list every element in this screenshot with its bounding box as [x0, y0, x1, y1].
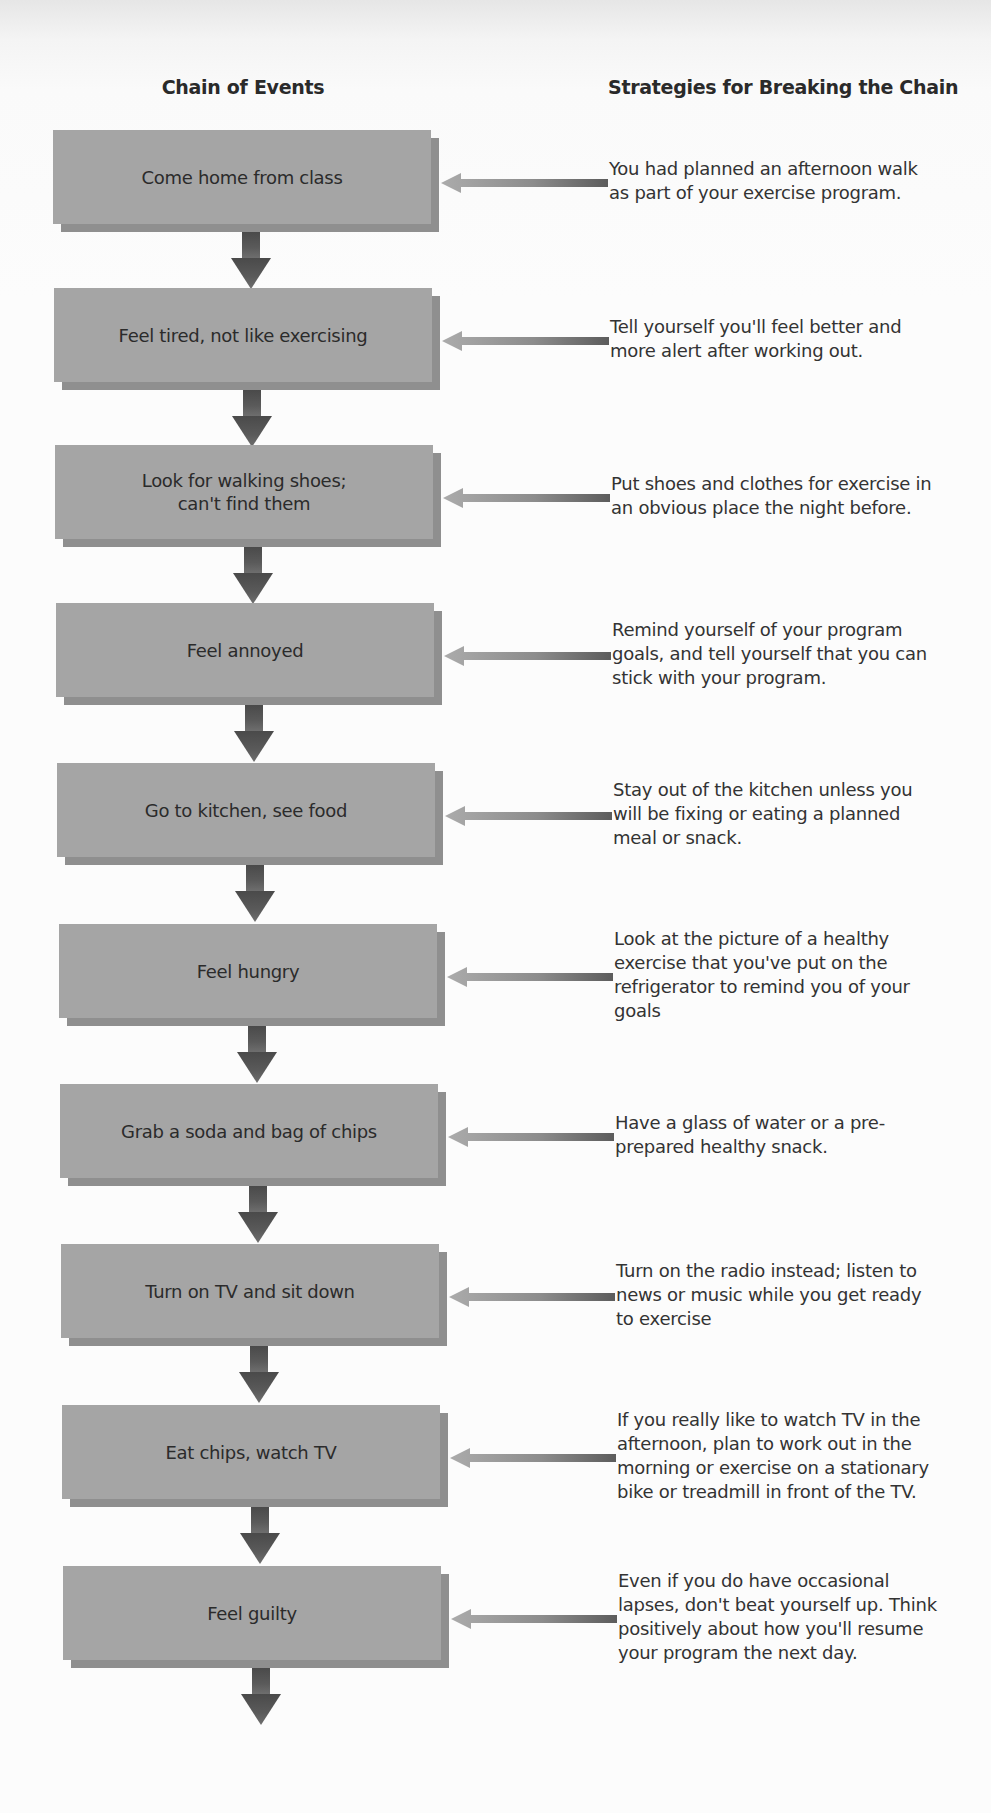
strategy-text: Have a glass of water or a pre- prepared… [615, 1111, 965, 1159]
event-step: Feel hungry [59, 924, 437, 1018]
event-step: Go to kitchen, see food [57, 763, 435, 857]
strategy-text: Put shoes and clothes for exercise in an… [611, 472, 961, 520]
down-arrow-icon [234, 865, 276, 923]
event-step: Come home from class [53, 130, 431, 224]
left-arrow-icon [447, 967, 613, 987]
event-step: Grab a soda and bag of chips [60, 1084, 438, 1178]
strategy-text: You had planned an afternoon walk as par… [609, 157, 959, 205]
event-box: Feel annoyed [56, 603, 434, 697]
down-arrow-icon [240, 1668, 282, 1726]
left-arrow-icon [449, 1287, 615, 1307]
event-step: Feel tired, not like exercising [54, 288, 432, 382]
down-arrow-icon [236, 1026, 278, 1084]
down-arrow-icon [232, 547, 274, 605]
down-arrow-icon [238, 1346, 280, 1404]
event-box: Turn on TV and sit down [61, 1244, 439, 1338]
left-arrow-icon [450, 1448, 616, 1468]
event-box: Look for walking shoes; can't find them [55, 445, 433, 539]
event-step: Feel guilty [63, 1566, 441, 1660]
strategy-text: Look at the picture of a healthy exercis… [614, 927, 964, 1023]
down-arrow-icon [230, 232, 272, 290]
chain-of-events-heading: Chain of Events [143, 76, 343, 98]
strategy-text: Turn on the radio instead; listen to new… [616, 1259, 966, 1331]
event-step: Turn on TV and sit down [61, 1244, 439, 1338]
event-box: Eat chips, watch TV [62, 1405, 440, 1499]
event-step: Feel annoyed [56, 603, 434, 697]
left-arrow-icon [444, 646, 611, 666]
event-step: Look for walking shoes; can't find them [55, 445, 433, 539]
left-arrow-icon [441, 173, 608, 193]
event-box: Feel hungry [59, 924, 437, 1018]
left-arrow-icon [443, 488, 610, 508]
strategy-text: Remind yourself of your program goals, a… [612, 618, 962, 690]
left-arrow-icon [448, 1127, 614, 1147]
strategy-text: Tell yourself you'll feel better and mor… [610, 315, 960, 363]
down-arrow-icon [237, 1186, 279, 1244]
left-arrow-icon [445, 806, 612, 826]
down-arrow-icon [233, 705, 275, 763]
strategy-text: Stay out of the kitchen unless you will … [613, 778, 963, 850]
event-box: Grab a soda and bag of chips [60, 1084, 438, 1178]
left-arrow-icon [451, 1609, 617, 1629]
down-arrow-icon [231, 390, 273, 448]
event-box: Feel guilty [63, 1566, 441, 1660]
event-step: Eat chips, watch TV [62, 1405, 440, 1499]
event-box: Go to kitchen, see food [57, 763, 435, 857]
strategies-heading: Strategies for Breaking the Chain [608, 76, 958, 98]
down-arrow-icon [239, 1507, 281, 1565]
event-box: Feel tired, not like exercising [54, 288, 432, 382]
strategy-text: Even if you do have occasional lapses, d… [618, 1569, 968, 1665]
left-arrow-icon [442, 331, 609, 351]
event-box: Come home from class [53, 130, 431, 224]
strategy-text: If you really like to watch TV in the af… [617, 1408, 967, 1504]
